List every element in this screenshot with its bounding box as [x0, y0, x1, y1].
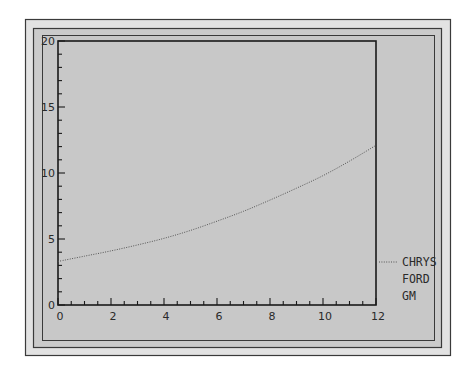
line-chart: 05101520024681012 CHRYSFORDGM: [0, 0, 472, 375]
x-tick-label: 8: [269, 310, 276, 323]
y-tick-label: 10: [41, 167, 55, 180]
x-tick-label: 6: [216, 310, 223, 323]
y-tick-label: 0: [48, 299, 55, 312]
y-tick-label: 5: [48, 233, 55, 246]
x-tick-label: 2: [110, 310, 117, 323]
y-tick-label: 20: [41, 35, 55, 48]
x-tick-label: 4: [163, 310, 170, 323]
y-tick-label: 15: [41, 101, 55, 114]
x-tick-label: 12: [371, 310, 385, 323]
legend-label-gm: GM: [402, 289, 416, 303]
legend-label-chrys: CHRYS: [402, 255, 437, 269]
x-tick-label: 0: [57, 310, 64, 323]
legend-label-ford: FORD: [402, 272, 430, 286]
x-tick-label: 10: [318, 310, 332, 323]
